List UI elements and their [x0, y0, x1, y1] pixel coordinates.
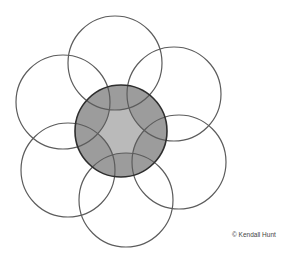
flower-circle-diagram — [0, 0, 285, 262]
copyright-credit: © Kendall Hunt — [232, 231, 276, 238]
